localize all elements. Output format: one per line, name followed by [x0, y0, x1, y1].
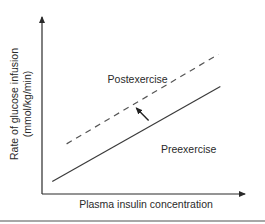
label-postexercise: Postexercise [108, 73, 168, 85]
insulin-sensitivity-diagram: Rate of glucose infusion (mmol/kg/min) P… [0, 0, 265, 224]
series-line-preexercise [52, 87, 220, 182]
label-preexercise: Preexercise [161, 143, 217, 155]
shift-arrow-icon [136, 108, 148, 121]
y-axis-label-line-2: (mmol/kg/min) [21, 71, 33, 138]
x-axis-label: Plasma insulin concentration [79, 198, 213, 210]
y-axis-label-line-1: Rate of glucose infusion [8, 48, 20, 160]
